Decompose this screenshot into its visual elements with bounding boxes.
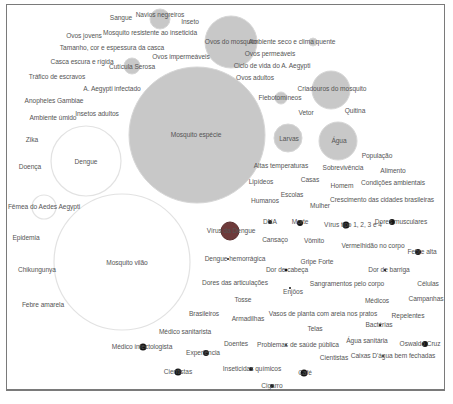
- term-label: Flebotomíneos: [259, 95, 302, 102]
- term-label: DNA: [263, 219, 277, 226]
- term-label: Ambiente seco e clima quente: [249, 39, 336, 46]
- term-label: Larvas: [279, 136, 299, 143]
- term-label: Tosse: [235, 297, 252, 304]
- term-label: Mulher: [310, 203, 330, 210]
- term-label: Ovos jovens: [66, 33, 102, 40]
- term-label: Ambiente úmido: [30, 115, 77, 122]
- term-label: Médicos: [365, 298, 389, 305]
- term-label: Doentes: [224, 341, 248, 348]
- term-label: Dengue hemorrágica: [205, 256, 266, 263]
- term-label: Vômito: [304, 238, 324, 245]
- term-label: Insetos adultos: [75, 111, 119, 118]
- term-label: Telas: [307, 326, 322, 333]
- term-label: Sangue: [110, 15, 132, 22]
- term-label: Dor de cabeça: [266, 267, 308, 274]
- term-label: Dor de barriga: [368, 267, 409, 274]
- term-label: Médico sanitarista: [159, 329, 211, 336]
- term-label: Tráfico de escravos: [29, 74, 85, 81]
- term-label: População: [362, 153, 393, 160]
- term-label: Sangramentos pelo corpo: [310, 281, 384, 288]
- term-label: Inseticidas químicos: [223, 366, 281, 373]
- term-label: Tamanho, cor e espessura da casca: [60, 45, 164, 52]
- term-label: Mosquito resistente ao inseticida: [103, 30, 197, 37]
- term-label: Ovos permeáveis: [245, 51, 296, 58]
- term-label: Sobrevivência: [323, 165, 364, 172]
- term-label: Anopheles Gambiae: [25, 98, 84, 105]
- term-label: Bactérias: [365, 322, 392, 329]
- term-label: Vírus tipo 1, 2, 3 e 4: [324, 222, 382, 229]
- term-label: Febre alta: [407, 249, 436, 256]
- term-label: Café: [298, 370, 312, 377]
- term-label: Mosquito espécie: [171, 132, 222, 139]
- term-label: Brasileiros: [189, 311, 219, 318]
- term-label: Vermelhidão no corpo: [341, 243, 404, 250]
- term-label: Oswaldo Cruz: [400, 341, 441, 348]
- term-label: Ciclo de vida do A. Aegypti: [234, 63, 311, 70]
- term-label: Escolas: [281, 192, 304, 199]
- term-label: Alimento: [380, 168, 405, 175]
- term-label: Navios negreiros: [136, 12, 185, 19]
- term-label: Médico infectologista: [112, 344, 173, 351]
- term-label: Campanhas: [408, 296, 443, 303]
- term-label: Febre amarela: [22, 302, 64, 309]
- term-label: Experiência: [186, 350, 220, 357]
- term-label: Mosquito vilão: [106, 260, 147, 267]
- term-label: Lipídeos: [249, 179, 274, 186]
- term-label: Enjôos: [283, 289, 303, 296]
- term-label: A. Aegypti infectado: [83, 86, 140, 93]
- term-label: Ovos impermeáveis: [152, 54, 209, 61]
- term-label: Doença: [19, 164, 41, 171]
- term-label: Fêmea do Aedes Aegypti: [8, 204, 80, 211]
- term-label: Caixas D'água bem fechadas: [351, 353, 436, 360]
- term-label: Humanos: [251, 198, 279, 205]
- term-label: Chikungunya: [18, 267, 56, 274]
- term-label: Ovos adultos: [236, 75, 274, 82]
- term-label: Altas temperaturas: [254, 163, 308, 170]
- term-label: Cutícula Serosa: [109, 64, 155, 71]
- term-label: Repelentes: [392, 313, 425, 320]
- term-label: Problemas de saúde pública: [257, 342, 339, 349]
- term-label: Cientistas: [164, 369, 192, 376]
- term-label: Morte: [292, 219, 309, 226]
- term-label: Quitina: [345, 108, 366, 115]
- term-label: Água sanitária: [346, 338, 387, 345]
- term-label: Vetor: [298, 110, 313, 117]
- term-label: Cansaço: [262, 237, 288, 244]
- term-label: Cigarro: [261, 383, 282, 390]
- term-label: Dores musculares: [375, 219, 427, 226]
- term-label: Inseto: [181, 19, 199, 26]
- term-label: Zika: [26, 137, 38, 144]
- term-label: Crescimento das cidades brasileiras: [330, 197, 434, 204]
- term-label: Casca escura e rígida: [50, 59, 113, 66]
- term-label: Água: [331, 138, 346, 145]
- term-label: Gripe Forte: [301, 259, 334, 266]
- term-label: Casas: [301, 177, 319, 184]
- term-label: Dengue: [75, 159, 98, 166]
- term-label: Vírus da Dengue: [207, 228, 256, 235]
- term-label: Cientistas: [320, 355, 348, 362]
- term-label: Homem: [331, 183, 354, 190]
- term-label: Epidemia: [12, 235, 39, 242]
- term-label: Criadouros do mosquito: [298, 86, 367, 93]
- term-label: Armadilhas: [232, 316, 264, 323]
- term-label: Células: [417, 281, 439, 288]
- term-label: Dores das articulações: [202, 280, 268, 287]
- term-label: Vasos de planta com areia nos pratos: [269, 311, 377, 318]
- term-label: Condições ambientais: [361, 180, 425, 187]
